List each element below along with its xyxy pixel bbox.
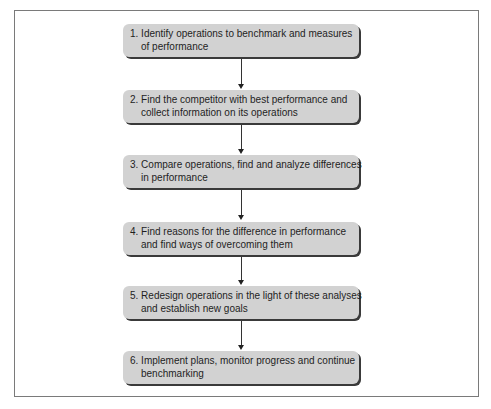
step-1-line-2: of performance <box>130 41 351 54</box>
diagram-frame <box>14 10 479 397</box>
step-6-line-2: benchmarking <box>130 368 351 381</box>
connector-3-4 <box>241 190 242 216</box>
arrowhead-down-icon <box>238 345 244 350</box>
step-6-line-1: 6. Implement plans, monitor progress and… <box>130 355 351 368</box>
step-2-box: 2. Find the competitor with best perform… <box>123 90 359 123</box>
arrowhead-down-icon <box>238 149 244 154</box>
step-1-box: 1. Identify operations to benchmark and … <box>123 24 359 57</box>
step-3-line-1: 3. Compare operations, find and analyze … <box>130 159 351 172</box>
step-4-line-2: and find ways of overcoming them <box>130 239 351 252</box>
connector-2-3 <box>241 125 242 150</box>
arrowhead-down-icon <box>238 215 244 220</box>
step-5-box: 5. Redesign operations in the light of t… <box>123 286 359 319</box>
arrowhead-down-icon <box>238 84 244 89</box>
step-1-line-1: 1. Identify operations to benchmark and … <box>130 28 351 41</box>
arrowhead-down-icon <box>238 280 244 285</box>
step-3-line-2: in performance <box>130 172 351 185</box>
step-5-line-1: 5. Redesign operations in the light of t… <box>130 290 351 303</box>
step-4-line-1: 4. Find reasons for the difference in pe… <box>130 226 351 239</box>
step-6-box: 6. Implement plans, monitor progress and… <box>123 351 359 384</box>
step-2-line-2: collect information on its operations <box>130 107 351 120</box>
step-5-line-2: and establish new goals <box>130 303 351 316</box>
connector-1-2 <box>241 59 242 85</box>
connector-4-5 <box>241 257 242 281</box>
step-4-box: 4. Find reasons for the difference in pe… <box>123 222 359 255</box>
step-3-box: 3. Compare operations, find and analyze … <box>123 155 359 188</box>
step-2-line-1: 2. Find the competitor with best perform… <box>130 94 351 107</box>
connector-5-6 <box>241 321 242 346</box>
